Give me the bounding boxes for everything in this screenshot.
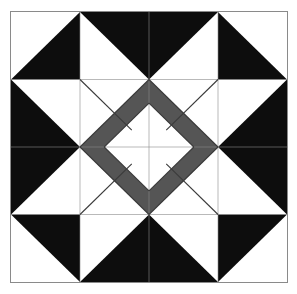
quilt-block-canvas	[0, 0, 297, 294]
quilt-block-artwork	[11, 12, 287, 282]
quilt-block-frame	[10, 11, 288, 283]
